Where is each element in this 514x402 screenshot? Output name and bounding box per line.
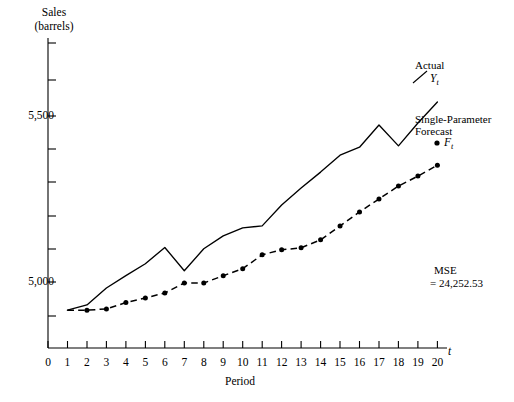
forecast-data-point	[104, 306, 109, 311]
x-axis-ticks	[48, 341, 437, 348]
forecast-series-label-line1: Single-Parameter	[415, 113, 491, 125]
actual-symbol-subscript: t	[436, 78, 438, 87]
y-axis-title-line2: (barrels)	[18, 20, 90, 33]
series-markers-forecast	[84, 163, 439, 313]
forecast-symbol-subscript: t	[451, 142, 453, 151]
series-line-actual	[67, 102, 437, 310]
forecast-data-point	[260, 252, 265, 257]
mse-label: MSE	[434, 264, 457, 276]
series-line-forecast	[67, 165, 437, 310]
forecast-data-point	[201, 281, 206, 286]
forecast-data-point	[396, 184, 401, 189]
y-tick-label-5500: 5,500	[10, 109, 54, 122]
forecast-data-point	[240, 266, 245, 271]
forecast-data-point	[338, 223, 343, 228]
forecast-data-point	[318, 237, 323, 242]
forecast-series-symbol: Ft	[444, 136, 453, 152]
forecast-data-point	[435, 163, 440, 168]
forecast-data-point	[415, 174, 420, 179]
forecast-data-point	[123, 300, 128, 305]
forecast-data-point	[182, 281, 187, 286]
actual-leader-line	[413, 71, 427, 83]
forecast-data-point	[357, 209, 362, 214]
forecast-data-point	[162, 290, 167, 295]
forecast-data-point	[221, 273, 226, 278]
x-tick-label-20: 20	[426, 356, 448, 368]
actual-series-label: Actual	[415, 59, 444, 71]
forecast-symbol-base: F	[444, 136, 451, 148]
chart-figure: Sales (barrels) 5,500 5,000 012345678910…	[0, 0, 514, 402]
y-tick-label-5000: 5,000	[10, 275, 54, 288]
mse-value: = 24,252.53	[430, 277, 483, 289]
forecast-legend-marker	[434, 140, 439, 145]
annotation-leader-lines	[413, 71, 427, 83]
forecast-data-point	[299, 245, 304, 250]
forecast-data-point	[143, 295, 148, 300]
forecast-data-point	[376, 197, 381, 202]
y-axis-title-line1: Sales	[24, 6, 84, 19]
forecast-data-point	[279, 247, 284, 252]
forecast-data-point	[84, 308, 89, 313]
actual-series-symbol: Yt	[430, 72, 439, 88]
x-axis-title: Period	[0, 375, 480, 388]
x-axis-variable-symbol: t	[448, 345, 451, 358]
